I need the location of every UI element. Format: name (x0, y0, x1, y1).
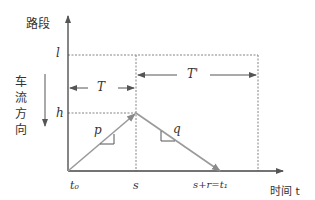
tick-t1: s+r=t₁ (193, 179, 228, 190)
flow-label-char-3: 方 (15, 104, 27, 121)
interval-T-label: T (97, 80, 105, 94)
interval-T-prime-label: T' (187, 67, 198, 81)
y-axis-label: 路段 (26, 14, 50, 31)
x-axis-label: 时间 t (270, 182, 300, 198)
flow-label-char-4: 向 (15, 120, 27, 137)
tick-h: h (56, 106, 64, 120)
slope-p-label: p (94, 123, 102, 137)
dashed-guides (68, 55, 258, 171)
tick-t0: t₀ (70, 179, 79, 192)
slope-q-label: q (173, 122, 181, 136)
flow-label-char-2: 流 (15, 88, 27, 105)
tick-s: s (133, 179, 139, 192)
tick-l: l (56, 46, 60, 60)
flow-label-char-1: 车 (15, 72, 27, 89)
